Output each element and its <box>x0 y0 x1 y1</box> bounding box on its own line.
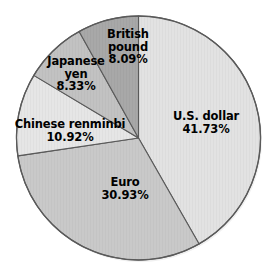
pie-chart: U.S. dollar 41.73% Euro 30.93% Chinese r… <box>0 0 278 275</box>
pie-chart-svg <box>0 0 278 275</box>
pie-slice-group <box>17 16 263 262</box>
